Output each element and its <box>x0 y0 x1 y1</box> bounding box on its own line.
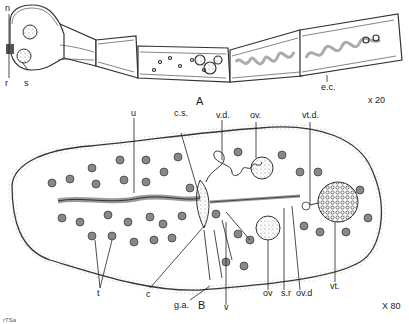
label-n: n <box>5 4 10 13</box>
panel-a-worm <box>6 5 402 82</box>
label-vd: v.d. <box>216 111 230 120</box>
label-t: t <box>97 289 100 298</box>
label-ga: g.a. <box>174 301 189 310</box>
panel-b-magnification: X 80 <box>382 302 401 311</box>
ovary-upper <box>251 157 273 179</box>
label-u: u <box>131 109 136 118</box>
artist-signature: rTSa <box>3 317 16 323</box>
label-vtd: vt.d. <box>302 111 319 120</box>
label-ov-top: ov. <box>250 111 261 120</box>
panel-a-magnification: x 20 <box>368 96 385 105</box>
ovary-lower <box>256 216 280 240</box>
label-ec: e.c. <box>321 83 336 92</box>
label-ovd: ov.d <box>296 289 312 298</box>
label-r: r <box>5 79 8 88</box>
panel-b-label: B <box>198 300 205 311</box>
label-v: v <box>224 303 229 312</box>
figure-drawing <box>0 0 409 324</box>
label-sr: s.r <box>281 289 291 298</box>
label-cs: c.s. <box>174 109 188 118</box>
label-c: c <box>146 290 151 299</box>
label-s: s <box>24 79 29 88</box>
label-ov: ov <box>263 289 273 298</box>
label-vt: vt. <box>330 282 340 291</box>
panel-a-label: A <box>196 96 203 107</box>
